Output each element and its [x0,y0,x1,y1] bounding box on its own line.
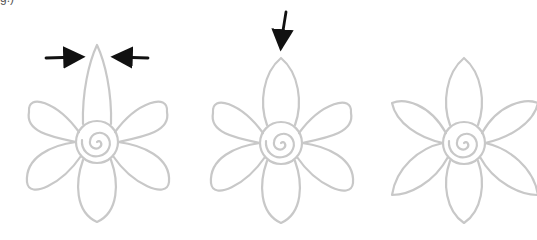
petal-upper-right-pointed [482,101,537,143]
petal-upper-left [213,103,263,143]
flower-step-1 [27,45,169,222]
diagram-canvas [0,0,537,240]
flower-drawing-steps: g.) [0,0,537,240]
caption-fragment: g.) [0,0,14,5]
top-petal-narrow [83,45,111,124]
petal-bottom [78,160,116,222]
petal-lower-left [211,143,265,191]
arrow-down-icon [281,12,286,46]
flower-step-3 [392,58,537,223]
petal-lower-right-pointed [480,143,537,195]
petal-lower-left [27,142,81,190]
petal-bottom-pointed [446,161,482,223]
petal-lower-right [297,143,353,191]
petal-bottom [262,161,300,223]
petal-upper-right [299,103,351,143]
petal-lower-left-pointed [392,143,448,195]
petal-upper-left-pointed [392,101,446,143]
center-spiral [82,133,110,156]
flower-step-2 [211,58,353,223]
arrow-left-icon [116,57,148,58]
arrow-right-icon [46,57,80,58]
top-petal-pointed [446,58,482,125]
center-spiral [266,134,294,157]
center-spiral [449,134,477,157]
petal-upper-left [29,102,79,142]
top-petal-pointed [263,58,299,125]
petal-upper-right [115,102,167,142]
petal-lower-right [113,142,169,190]
